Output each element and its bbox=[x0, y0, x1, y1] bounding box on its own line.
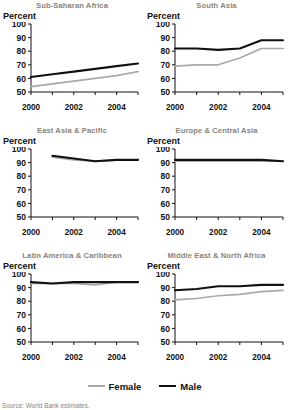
plot-area: 1009080706050 bbox=[0, 22, 144, 104]
x-tick-2002: 2002 bbox=[209, 353, 227, 362]
plot-area: 1009080706050 bbox=[144, 272, 289, 354]
svg-text:100: 100 bbox=[12, 22, 27, 29]
legend-item-male: Male bbox=[159, 381, 201, 392]
svg-text:80: 80 bbox=[16, 296, 26, 306]
svg-text:50: 50 bbox=[16, 337, 26, 347]
panel-latin-america-caribbean: Latin America & Caribbean Percent 100908… bbox=[0, 250, 144, 375]
legend-item-female: Female bbox=[88, 381, 142, 392]
svg-text:70: 70 bbox=[16, 310, 26, 320]
x-tick-2004: 2004 bbox=[252, 103, 270, 112]
x-tick-2004: 2004 bbox=[107, 353, 125, 362]
svg-text:100: 100 bbox=[12, 147, 27, 154]
x-tick-2000: 2000 bbox=[166, 228, 184, 237]
svg-text:60: 60 bbox=[160, 324, 170, 334]
x-tick-2000: 2000 bbox=[166, 353, 184, 362]
panel-europe-central-asia: Europe & Central Asia Percent 1009080706… bbox=[144, 125, 289, 250]
x-axis-ticklabels: 200020022004 bbox=[0, 353, 144, 365]
y-axis-label: Percent bbox=[147, 261, 180, 272]
svg-text:80: 80 bbox=[16, 171, 26, 181]
x-axis-ticklabels: 200020022004 bbox=[144, 228, 289, 240]
svg-text:50: 50 bbox=[160, 212, 170, 222]
y-axis-label: Percent bbox=[147, 136, 180, 147]
x-tick-2004: 2004 bbox=[107, 228, 125, 237]
x-axis-ticklabels: 200020022004 bbox=[0, 103, 144, 115]
svg-text:100: 100 bbox=[156, 147, 171, 154]
x-axis-ticklabels: 200020022004 bbox=[0, 228, 144, 240]
svg-text:60: 60 bbox=[16, 74, 26, 84]
x-tick-2000: 2000 bbox=[22, 228, 40, 237]
svg-text:100: 100 bbox=[156, 22, 171, 29]
svg-text:90: 90 bbox=[160, 158, 170, 168]
svg-text:70: 70 bbox=[160, 60, 170, 70]
legend-label-male: Male bbox=[180, 381, 201, 392]
svg-text:90: 90 bbox=[16, 33, 26, 43]
svg-text:90: 90 bbox=[160, 33, 170, 43]
svg-text:90: 90 bbox=[16, 283, 26, 293]
svg-text:60: 60 bbox=[160, 199, 170, 209]
svg-text:70: 70 bbox=[16, 185, 26, 195]
svg-text:60: 60 bbox=[16, 199, 26, 209]
svg-text:50: 50 bbox=[16, 87, 26, 97]
x-tick-2002: 2002 bbox=[209, 103, 227, 112]
panel-south-asia: South Asia Percent 1009080706050 2000200… bbox=[144, 0, 289, 125]
svg-text:70: 70 bbox=[16, 60, 26, 70]
y-axis-label: Percent bbox=[147, 11, 180, 22]
x-tick-2002: 2002 bbox=[209, 228, 227, 237]
male-line-swatch-icon bbox=[159, 385, 176, 387]
x-tick-2002: 2002 bbox=[65, 228, 83, 237]
svg-text:50: 50 bbox=[160, 87, 170, 97]
svg-text:70: 70 bbox=[160, 310, 170, 320]
x-tick-2000: 2000 bbox=[22, 103, 40, 112]
plot-area: 1009080706050 bbox=[0, 147, 144, 229]
panel-middle-east-north-africa: Middle East & North Africa Percent 10090… bbox=[144, 250, 289, 375]
plot-area: 1009080706050 bbox=[144, 147, 289, 229]
y-axis-label: Percent bbox=[3, 261, 36, 272]
plot-area: 1009080706050 bbox=[144, 22, 289, 104]
plot-area: 1009080706050 bbox=[0, 272, 144, 354]
figure-root: Sub-Saharan Africa Percent 1009080706050… bbox=[0, 0, 289, 410]
x-tick-2004: 2004 bbox=[252, 228, 270, 237]
legend-label-female: Female bbox=[109, 381, 142, 392]
x-tick-2002: 2002 bbox=[65, 103, 83, 112]
x-axis-ticklabels: 200020022004 bbox=[144, 353, 289, 365]
legend: Female Male bbox=[0, 379, 289, 393]
svg-text:80: 80 bbox=[160, 46, 170, 56]
x-tick-2004: 2004 bbox=[107, 103, 125, 112]
svg-text:90: 90 bbox=[16, 158, 26, 168]
svg-text:70: 70 bbox=[160, 185, 170, 195]
x-axis-ticklabels: 200020022004 bbox=[144, 103, 289, 115]
x-tick-2000: 2000 bbox=[22, 353, 40, 362]
svg-text:100: 100 bbox=[156, 272, 171, 279]
y-axis-label: Percent bbox=[3, 11, 36, 22]
x-tick-2004: 2004 bbox=[252, 353, 270, 362]
svg-text:50: 50 bbox=[16, 212, 26, 222]
svg-text:80: 80 bbox=[16, 46, 26, 56]
svg-text:90: 90 bbox=[160, 283, 170, 293]
x-tick-2002: 2002 bbox=[65, 353, 83, 362]
svg-text:80: 80 bbox=[160, 296, 170, 306]
y-axis-label: Percent bbox=[3, 136, 36, 147]
female-line-swatch-icon bbox=[88, 385, 105, 387]
source-note: Source: World Bank estimates. bbox=[2, 402, 287, 410]
svg-text:60: 60 bbox=[16, 324, 26, 334]
svg-text:50: 50 bbox=[160, 337, 170, 347]
svg-text:100: 100 bbox=[12, 272, 27, 279]
x-tick-2000: 2000 bbox=[166, 103, 184, 112]
svg-text:80: 80 bbox=[160, 171, 170, 181]
panel-sub-saharan-africa: Sub-Saharan Africa Percent 1009080706050… bbox=[0, 0, 144, 125]
small-multiples-grid: Sub-Saharan Africa Percent 1009080706050… bbox=[0, 0, 289, 375]
svg-text:60: 60 bbox=[160, 74, 170, 84]
panel-east-asia-pacific: East Asia & Pacific Percent 100908070605… bbox=[0, 125, 144, 250]
